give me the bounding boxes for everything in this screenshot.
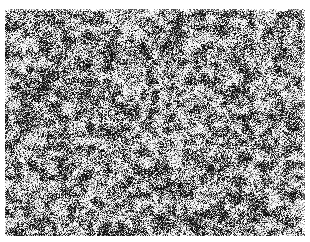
image-frame (0, 0, 310, 242)
noise-texture-image (5, 9, 305, 236)
